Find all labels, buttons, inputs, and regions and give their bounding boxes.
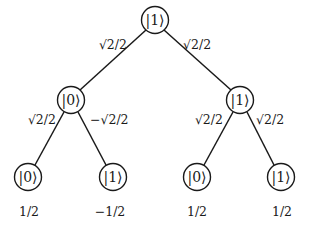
- node-leaf-2: |1⟩: [100, 164, 127, 191]
- edge-label-root-right: √2/2: [183, 37, 211, 52]
- edge-label-root-left: √2/2: [99, 37, 127, 52]
- node-root-label: |1⟩: [145, 12, 164, 29]
- amplitude-leaf-4: 1/2: [272, 204, 292, 219]
- edge-label-mid-left-leaf-2: −√2/2: [90, 112, 129, 127]
- node-leaf-1-label: |0⟩: [18, 169, 37, 186]
- node-leaf-4-label: |1⟩: [271, 169, 290, 186]
- amplitude-leaf-2: −1/2: [95, 204, 126, 219]
- edge-label-mid-right-leaf-3: √2/2: [195, 112, 223, 127]
- node-mid-left: |0⟩: [58, 87, 85, 114]
- node-leaf-3-label: |0⟩: [187, 169, 206, 186]
- node-leaf-1: |0⟩: [15, 164, 42, 191]
- node-leaf-3: |0⟩: [184, 164, 211, 191]
- node-root: |1⟩: [142, 7, 169, 34]
- amplitude-leaf-3: 1/2: [187, 204, 207, 219]
- node-mid-left-label: |0⟩: [61, 92, 80, 109]
- node-leaf-4: |1⟩: [268, 164, 295, 191]
- node-mid-right-label: |1⟩: [230, 92, 249, 109]
- node-mid-right: |1⟩: [227, 87, 254, 114]
- node-leaf-2-label: |1⟩: [103, 169, 122, 186]
- edge-label-mid-right-leaf-4: √2/2: [256, 112, 284, 127]
- amplitude-tree-diagram: √2/2 √2/2 √2/2 −√2/2 √2/2 √2/2 |1⟩ |0⟩ |…: [0, 0, 311, 229]
- amplitude-leaf-1: 1/2: [19, 204, 39, 219]
- edge-label-mid-left-leaf-1: √2/2: [28, 112, 56, 127]
